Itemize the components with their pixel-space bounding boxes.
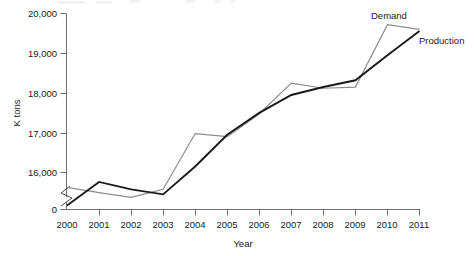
x-tick-label-2008: 2008 — [312, 219, 333, 230]
y-axis: 20,000 19,000 18,000 17,000 16,000 0 K t… — [11, 8, 72, 215]
chart-container: 20,000 19,000 18,000 17,000 16,000 0 K t… — [0, 0, 474, 256]
x-tick-label-2007: 2007 — [280, 219, 301, 230]
x-tick-label-2000: 2000 — [56, 219, 77, 230]
series-label-demand: Demand — [371, 10, 407, 21]
y-tick-label-20000: 20,000 — [28, 8, 57, 19]
x-tick-label-2003: 2003 — [152, 219, 173, 230]
x-axis: 2000 2001 2002 2003 2004 2005 2006 2007 … — [56, 210, 429, 250]
y-tick-label-18000: 18,000 — [28, 88, 57, 99]
x-tick-label-2006: 2006 — [248, 219, 269, 230]
top-scan-artifacts — [57, 0, 235, 4]
x-tick-label-2009: 2009 — [344, 219, 365, 230]
series-label-production: Production — [419, 35, 464, 46]
series-line-demand — [67, 25, 420, 198]
x-tick-label-2002: 2002 — [120, 219, 141, 230]
plot-area — [67, 25, 420, 206]
x-tick-label-2011: 2011 — [409, 219, 429, 230]
x-tick-label-2010: 2010 — [376, 219, 397, 230]
x-axis-title: Year — [233, 238, 252, 249]
y-tick-label-17000: 17,000 — [28, 128, 57, 139]
y-tick-label-19000: 19,000 — [28, 48, 57, 59]
x-tick-label-2005: 2005 — [216, 219, 237, 230]
line-chart: 20,000 19,000 18,000 17,000 16,000 0 K t… — [0, 0, 474, 256]
y-tick-label-zero: 0 — [52, 204, 57, 215]
y-axis-title: K tons — [11, 99, 22, 126]
y-tick-label-16000: 16,000 — [28, 167, 57, 178]
x-tick-label-2001: 2001 — [88, 219, 109, 230]
series-line-production — [67, 31, 420, 205]
x-tick-label-2004: 2004 — [184, 219, 205, 230]
chart-legend: Demand Production — [371, 10, 464, 46]
